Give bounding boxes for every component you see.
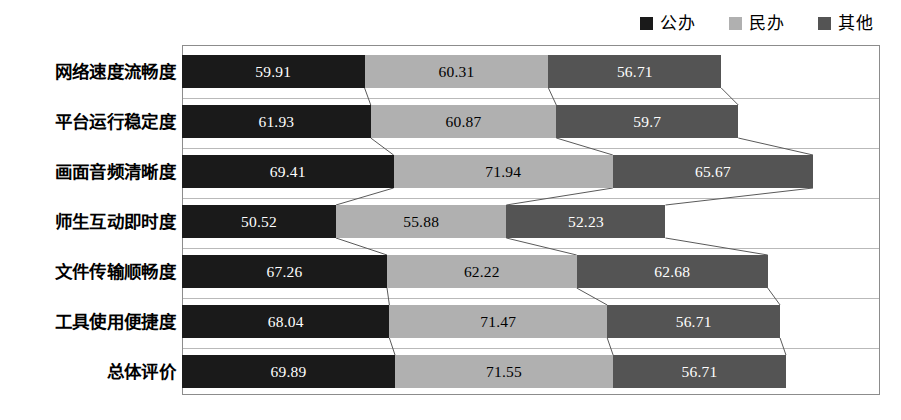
bar-segment[interactable]: 71.94 [394,155,613,188]
category-label: 总体评价 [0,362,176,382]
bar-value-label: 71.55 [486,364,522,380]
bar-segment[interactable]: 67.26 [182,255,387,288]
bar-value-label: 56.71 [682,364,718,380]
bar-value-label: 71.47 [480,314,516,330]
bar-segment[interactable]: 56.71 [613,355,786,388]
bar-row: 69.4171.9465.67 [182,155,880,188]
category-label: 平台运行稳定度 [0,112,176,132]
bar-row: 68.0471.4756.71 [182,305,880,338]
bar-value-label: 68.04 [268,314,304,330]
bar-value-label: 62.22 [464,264,500,280]
bar-row: 59.9160.3156.71 [182,55,880,88]
bar-value-label: 71.94 [485,164,521,180]
bar-segment[interactable]: 59.7 [556,105,738,138]
bars-layer: 59.9160.3156.7161.9360.8759.769.4171.946… [182,45,880,395]
bar-segment[interactable]: 50.52 [182,205,336,238]
bar-value-label: 56.71 [676,314,712,330]
bar-value-label: 50.52 [241,214,277,230]
bar-value-label: 69.41 [270,164,306,180]
bar-row: 50.5255.8852.23 [182,205,880,238]
bar-segment[interactable]: 56.71 [607,305,780,338]
bar-value-label: 65.67 [695,164,731,180]
legend-item-label: 其他 [838,15,873,32]
bar-segment[interactable]: 60.87 [371,105,557,138]
bar-value-label: 52.23 [568,214,604,230]
bar-value-label: 61.93 [258,114,294,130]
bar-segment[interactable]: 65.67 [613,155,813,188]
bar-value-label: 56.71 [617,64,653,80]
bar-segment[interactable]: 56.71 [548,55,721,88]
bar-value-label: 69.89 [271,364,307,380]
bar-segment[interactable]: 62.68 [577,255,768,288]
bar-segment[interactable]: 71.47 [389,305,607,338]
bar-value-label: 59.91 [255,64,291,80]
bar-segment[interactable]: 62.22 [387,255,577,288]
bar-row: 61.9360.8759.7 [182,105,880,138]
bar-value-label: 55.88 [403,214,439,230]
category-label: 网络速度流畅度 [0,62,176,82]
bar-segment[interactable]: 69.89 [182,355,395,388]
category-label: 师生互动即时度 [0,212,176,232]
category-axis: 网络速度流畅度平台运行稳定度画面音频清晰度师生互动即时度文件传输顺畅度工具使用便… [0,45,176,395]
bar-value-label: 59.7 [633,114,661,130]
bar-segment[interactable]: 52.23 [506,205,665,238]
category-label: 工具使用便捷度 [0,312,176,332]
legend-item[interactable]: 公办 [640,15,695,32]
bar-value-label: 67.26 [267,264,303,280]
legend-item[interactable]: 其他 [818,15,873,32]
bar-row: 67.2662.2262.68 [182,255,880,288]
legend-item[interactable]: 民办 [729,15,784,32]
bar-segment[interactable]: 71.55 [395,355,613,388]
square-swatch-icon [818,17,831,30]
square-swatch-icon [729,17,742,30]
square-swatch-icon [640,17,653,30]
chart-legend: 公办民办其他 [0,8,901,38]
category-label: 文件传输顺畅度 [0,262,176,282]
bar-value-label: 60.87 [446,114,482,130]
bar-row: 69.8971.5556.71 [182,355,880,388]
category-label: 画面音频清晰度 [0,162,176,182]
legend-item-label: 公办 [660,15,695,32]
bar-segment[interactable]: 69.41 [182,155,394,188]
bar-segment[interactable]: 61.93 [182,105,371,138]
bar-segment[interactable]: 55.88 [336,205,506,238]
bar-segment[interactable]: 59.91 [182,55,365,88]
legend-item-label: 民办 [749,15,784,32]
bar-segment[interactable]: 68.04 [182,305,389,338]
bar-value-label: 60.31 [439,64,475,80]
bar-value-label: 62.68 [654,264,690,280]
bar-segment[interactable]: 60.31 [365,55,549,88]
